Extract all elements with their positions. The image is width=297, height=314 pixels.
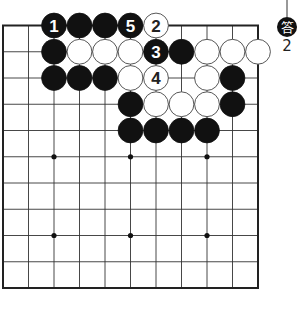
star-point <box>204 154 209 159</box>
stone-disc <box>195 92 220 117</box>
star-point <box>128 233 133 238</box>
white-stone: 2 <box>144 13 169 38</box>
stone-disc <box>144 118 169 143</box>
black-stone <box>93 66 118 91</box>
stone-disc <box>67 39 92 64</box>
stone-disc <box>118 92 143 117</box>
answer-marker: 答 2 <box>277 0 297 55</box>
white-stone: 4 <box>144 66 169 91</box>
answer-number: 2 <box>282 37 292 55</box>
stone-disc <box>169 39 194 64</box>
star-point <box>51 154 56 159</box>
white-stone <box>118 66 143 91</box>
black-stone <box>195 118 220 143</box>
white-stone <box>195 92 220 117</box>
black-stone <box>169 118 194 143</box>
stone-disc <box>195 39 220 64</box>
move-number: 1 <box>49 17 58 36</box>
stone-disc <box>246 39 271 64</box>
white-stone <box>118 39 143 64</box>
move-number: 3 <box>151 43 160 62</box>
stone-disc <box>169 118 194 143</box>
black-stone <box>67 13 92 38</box>
black-stone <box>67 66 92 91</box>
black-stone <box>93 13 118 38</box>
stone-disc <box>220 66 245 91</box>
black-stone <box>42 39 67 64</box>
stone-disc <box>42 66 67 91</box>
white-stone <box>144 92 169 117</box>
black-stone <box>220 66 245 91</box>
star-point <box>204 233 209 238</box>
move-number: 2 <box>151 17 160 36</box>
stone-disc <box>118 66 143 91</box>
go-board-diagram: 15234 答 2 <box>0 0 297 314</box>
stone-disc <box>195 66 220 91</box>
stone-disc <box>195 118 220 143</box>
black-stone <box>118 118 143 143</box>
stone-disc <box>67 13 92 38</box>
move-number: 5 <box>126 17 135 36</box>
stones-layer: 15234 <box>42 13 271 143</box>
white-stone <box>67 39 92 64</box>
stone-disc <box>220 39 245 64</box>
white-stone <box>195 39 220 64</box>
white-stone <box>195 66 220 91</box>
star-point <box>128 154 133 159</box>
black-stone <box>42 66 67 91</box>
move-number: 4 <box>151 69 161 88</box>
stone-disc <box>67 66 92 91</box>
black-stone: 1 <box>42 13 67 38</box>
stone-disc <box>42 39 67 64</box>
answer-badge-text: 答 <box>281 20 294 35</box>
white-stone <box>220 39 245 64</box>
stone-disc <box>220 92 245 117</box>
stone-disc <box>93 66 118 91</box>
black-stone: 3 <box>144 39 169 64</box>
white-stone <box>246 39 271 64</box>
stone-disc <box>169 92 194 117</box>
black-stone <box>169 39 194 64</box>
black-stone: 5 <box>118 13 143 38</box>
star-point <box>51 233 56 238</box>
stone-disc <box>93 39 118 64</box>
white-stone <box>93 39 118 64</box>
black-stone <box>118 92 143 117</box>
stone-disc <box>144 92 169 117</box>
stone-disc <box>118 39 143 64</box>
black-stone <box>220 92 245 117</box>
stone-disc <box>118 118 143 143</box>
black-stone <box>144 118 169 143</box>
stone-disc <box>93 13 118 38</box>
white-stone <box>169 92 194 117</box>
